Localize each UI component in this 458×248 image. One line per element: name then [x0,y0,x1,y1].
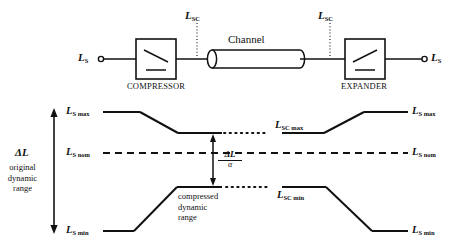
expander-block [345,39,385,79]
input-terminal-label: LS [78,52,88,63]
ls-max-left-label: LS max [66,106,90,117]
compressed-dynamic-range-caption: compressed dynamic range [178,191,244,223]
delta-l-over-alpha-fraction: ΔL α [218,150,242,169]
compression-ramp-max [140,112,178,133]
lsc-min-label: LSC min [277,190,304,201]
tap-left-label: LSC [185,10,200,21]
expander-block-label: EXPANDER [341,82,387,91]
compression-ramp-min [134,187,177,231]
ls-min-right-label: LS min [412,225,435,236]
compressor-block [136,39,176,79]
channel-left-cap [207,50,216,68]
compressed-dynamic-range-arrow [210,134,216,186]
block-diagram-group [98,23,427,79]
input-terminal-node [98,56,103,61]
tap-right-label: LSC [318,10,333,21]
expansion-ramp-max [324,112,364,133]
lsc-max-label: LSC max [275,120,303,131]
original-dynamic-range-arrow [50,108,57,234]
original-dynamic-range-caption: original dynamic range [0,162,45,194]
ls-min-left-label: LS min [66,225,89,236]
channel-label: Channel [228,34,265,45]
compressor-block-label: COMPRESSOR [127,82,185,91]
channel-body-fill [212,50,300,68]
expansion-ramp-min [326,187,372,231]
ls-max-right-label: LS max [412,106,436,117]
output-terminal-node [422,56,427,61]
output-terminal-label: LS [431,52,441,63]
delta-l-symbol: ΔL [15,147,29,158]
ls-nom-left-label: LS nom [66,147,90,158]
figure-root: LS LS COMPRESSOR EXPANDER Channel LSC LS… [0,0,458,248]
ls-nom-right-label: LS nom [412,147,436,158]
